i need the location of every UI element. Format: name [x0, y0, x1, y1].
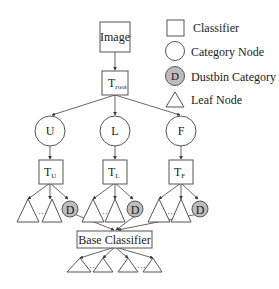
leaf-node	[93, 258, 113, 272]
edge-tf-leaf1	[159, 183, 181, 199]
legend: Classifier Category Node D Dustbin Categ…	[166, 20, 277, 107]
edge-tf-dustbin	[181, 183, 198, 199]
leaves-tu: … D	[17, 199, 78, 222]
legend-item-category: Category Node	[166, 42, 264, 61]
category-node-f: F	[166, 116, 196, 146]
tu-sub: U	[51, 172, 56, 180]
leaf-node	[17, 199, 39, 222]
edge-base-leaf1	[80, 247, 115, 258]
legend-item-leaf: Leaf Node	[166, 92, 242, 107]
base-classifier: Base Classifier	[77, 231, 152, 248]
edge-tl-dustbin	[115, 183, 133, 199]
edge-base-leaf4	[115, 247, 153, 258]
edge-tu-dustbin	[50, 183, 68, 199]
root-sub: root	[115, 83, 126, 91]
category-l-label: L	[111, 124, 118, 138]
tl-sub: L	[115, 172, 119, 180]
category-node-l: L	[100, 116, 130, 146]
square-icon	[167, 20, 184, 36]
legend-label: Classifier	[193, 21, 239, 35]
leaves-tf: … D	[148, 199, 208, 222]
legend-item-dustbin: D Dustbin Category	[166, 67, 277, 86]
legend-label: Leaf Node	[191, 93, 242, 107]
dustbin-symbol: D	[171, 70, 179, 82]
legend-label: Category Node	[191, 45, 264, 59]
image-label: Image	[100, 30, 130, 44]
classifier-tf: TF	[169, 160, 193, 184]
ellipsis: …	[86, 260, 95, 270]
edge-root-u	[52, 95, 115, 115]
legend-label: Dustbin Category	[191, 70, 276, 84]
category-node-u: U	[35, 116, 65, 146]
circle-icon	[166, 42, 185, 61]
classifier-tu: TU	[39, 160, 63, 184]
edge-tu-leaf1	[28, 183, 50, 199]
tf-sub: F	[181, 172, 185, 180]
leaves-tl: … D	[82, 199, 143, 222]
classifier-tl: TL	[103, 160, 127, 184]
dustbin-f-label: D	[196, 203, 205, 217]
category-u-label: U	[46, 124, 55, 138]
hierarchical-classifier-diagram: Image Troot U L F TU TL TF … D …	[0, 0, 279, 289]
edge-tl-leaf1	[93, 183, 115, 199]
dustbin-u-label: D	[66, 203, 75, 217]
ellipsis: …	[137, 260, 146, 270]
dustbin-l-label: D	[131, 203, 140, 217]
image-node: Image	[100, 22, 130, 52]
base-classifier-label: Base Classifier	[78, 233, 150, 247]
root-classifier: Troot	[102, 71, 128, 95]
category-f-label: F	[178, 124, 185, 138]
leaves-base: … …	[67, 258, 162, 272]
triangle-icon	[166, 92, 184, 107]
legend-item-classifier: Classifier	[167, 20, 239, 36]
leaf-node	[118, 258, 138, 272]
leaf-node	[82, 199, 104, 222]
